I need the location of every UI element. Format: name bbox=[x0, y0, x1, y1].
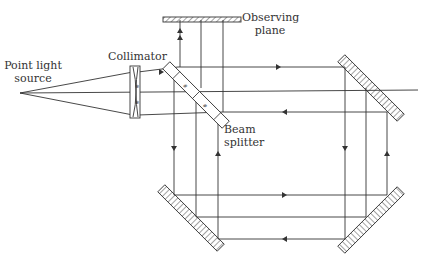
label-line: splitter bbox=[224, 136, 264, 149]
label-observing-plane: Observing plane bbox=[242, 11, 298, 37]
arrow-up-icon bbox=[215, 151, 221, 156]
arrow-up-icon bbox=[177, 35, 183, 40]
svg-text:⊗: ⊗ bbox=[135, 83, 139, 89]
observing-plane bbox=[163, 17, 241, 22]
interferometer-diagram: ⊗ ⊗ # # Point light source Col bbox=[0, 0, 426, 265]
label-beam-splitter: Beam splitter bbox=[224, 123, 264, 149]
label-line: source bbox=[3, 72, 63, 85]
diagram-canvas: ⊗ ⊗ # # bbox=[0, 0, 426, 265]
label-line: Point light bbox=[3, 59, 63, 72]
direction-arrows bbox=[159, 28, 390, 242]
label-line: Beam bbox=[224, 123, 264, 136]
label-point-light-source: Point light source bbox=[3, 59, 63, 85]
label-line: plane bbox=[242, 24, 298, 37]
arrow-left-icon bbox=[282, 236, 287, 242]
arrow-up-icon bbox=[177, 28, 183, 33]
arrow-left-icon bbox=[282, 109, 287, 115]
arrow-right-icon bbox=[282, 192, 287, 198]
arrow-down-icon bbox=[171, 146, 177, 151]
arrow-right-icon bbox=[276, 64, 281, 70]
arrow-down-icon bbox=[342, 146, 348, 151]
mirror-top-right bbox=[338, 55, 404, 121]
svg-text:⊗: ⊗ bbox=[135, 99, 139, 105]
label-line: Observing bbox=[242, 11, 298, 24]
arrow-up-icon bbox=[384, 151, 390, 156]
label-collimator: Collimator bbox=[108, 50, 167, 63]
mirror-bottom-right bbox=[338, 187, 404, 253]
collimator-lens: ⊗ ⊗ bbox=[130, 66, 140, 118]
